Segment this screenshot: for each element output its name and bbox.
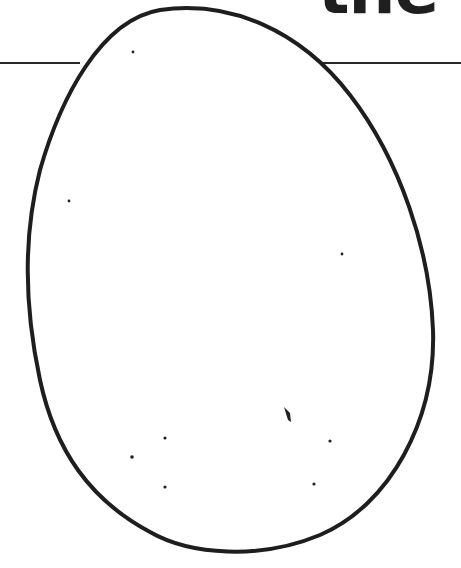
egg-outline <box>28 8 434 552</box>
egg-illustration <box>0 0 461 568</box>
